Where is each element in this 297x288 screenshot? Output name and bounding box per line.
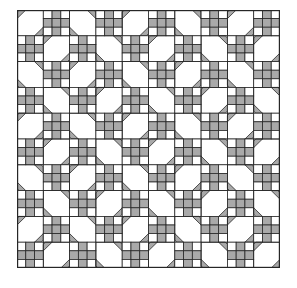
- checker-block: [175, 191, 201, 217]
- checker-block: [122, 191, 148, 217]
- checker-block: [17, 36, 43, 62]
- checker-block: [227, 36, 253, 62]
- checker-block: [17, 242, 43, 268]
- checker-block: [254, 165, 280, 191]
- checker-block: [43, 216, 69, 242]
- checker-block: [17, 87, 43, 113]
- quilt-pattern: [17, 10, 280, 268]
- checker-block: [43, 10, 69, 36]
- checker-block: [227, 139, 253, 165]
- checker-block: [201, 113, 227, 139]
- checker-block: [201, 10, 227, 36]
- checker-block: [122, 242, 148, 268]
- checker-block: [43, 62, 69, 88]
- checker-block: [70, 242, 96, 268]
- checker-block: [96, 165, 122, 191]
- checker-block: [70, 87, 96, 113]
- checker-block: [70, 191, 96, 217]
- checker-block: [149, 10, 175, 36]
- checker-block: [175, 242, 201, 268]
- checker-block: [17, 139, 43, 165]
- checker-block: [175, 87, 201, 113]
- checker-block: [201, 216, 227, 242]
- checker-block: [70, 36, 96, 62]
- checker-block: [254, 10, 280, 36]
- checker-block: [70, 139, 96, 165]
- checker-block: [122, 139, 148, 165]
- checker-block: [43, 113, 69, 139]
- checker-block: [201, 165, 227, 191]
- checker-block: [175, 139, 201, 165]
- checker-block: [149, 113, 175, 139]
- checker-block: [201, 62, 227, 88]
- checker-block: [122, 36, 148, 62]
- checker-block: [227, 87, 253, 113]
- checker-block: [175, 36, 201, 62]
- checker-block: [96, 10, 122, 36]
- checker-block: [149, 62, 175, 88]
- checker-block: [96, 113, 122, 139]
- checker-block: [149, 165, 175, 191]
- checker-block: [254, 113, 280, 139]
- checker-block: [149, 216, 175, 242]
- checker-block: [96, 62, 122, 88]
- checker-block: [17, 191, 43, 217]
- checker-block: [254, 62, 280, 88]
- checker-block: [227, 191, 253, 217]
- checker-block: [254, 216, 280, 242]
- checker-block: [96, 216, 122, 242]
- checker-block: [43, 165, 69, 191]
- checker-block: [227, 242, 253, 268]
- checker-block: [122, 87, 148, 113]
